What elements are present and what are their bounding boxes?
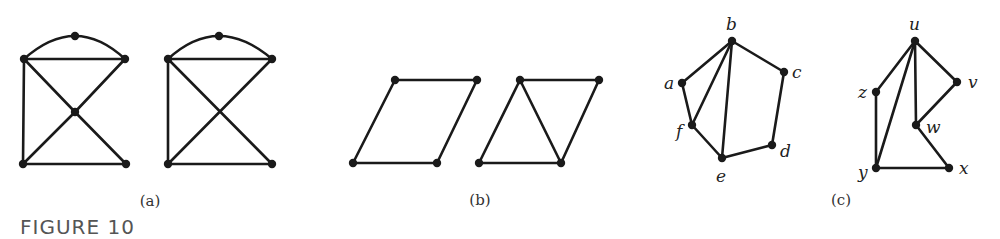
vertex-label-c: c (792, 62, 802, 82)
vertex-b1-bl (349, 159, 357, 167)
vertex-c1-e (718, 154, 726, 162)
vertex-c1-a (678, 79, 686, 87)
vertex-b1-tr (473, 76, 481, 84)
panel-label-b: (b) (469, 191, 490, 209)
vertex-label-f: f (674, 121, 685, 141)
vertex-a2-br (268, 160, 276, 168)
edge-c1-b-c (732, 41, 784, 72)
edge-c2-u-w (915, 41, 916, 125)
vertex-b2-tr (595, 76, 603, 84)
edge-a1-tl-bl (23, 59, 24, 164)
edge-c1-e-f (692, 125, 722, 158)
vertex-a2-tl (164, 55, 172, 63)
vertex-label-v: v (968, 72, 978, 92)
figure-canvas: abcdefuvzwyx (a) (b) (c) FIGURE 10 (0, 0, 1000, 239)
edge-b2-tr-br (561, 80, 599, 163)
vertex-label-d: d (780, 141, 791, 161)
vertex-label-y: y (857, 162, 868, 182)
vertex-c1-f (688, 121, 696, 129)
nodes-layer (19, 32, 961, 172)
vertex-c2-v (953, 78, 961, 86)
edges-layer (23, 36, 957, 168)
vertex-a2-bl (164, 160, 172, 168)
vertex-labels-layer: abcdefuvzwyx (664, 14, 978, 186)
vertex-a2-tr (268, 55, 276, 63)
vertex-label-z: z (857, 82, 868, 102)
vertex-a1-bl (19, 160, 27, 168)
edge-c1-a-b (682, 41, 732, 83)
edge-c2-u-v (915, 41, 957, 82)
vertex-b2-br (557, 159, 565, 167)
edge-c1-d-e (722, 145, 772, 158)
panel-label-a: (a) (140, 192, 161, 210)
vertex-b2-bl (475, 159, 483, 167)
edge-b2-tl-br (520, 80, 561, 163)
vertex-c2-w (912, 121, 920, 129)
panel-label-c: (c) (831, 191, 851, 209)
vertex-label-a: a (664, 73, 674, 93)
edge-c2-u-z (876, 41, 915, 92)
vertex-c1-b (728, 37, 736, 45)
vertex-c2-z (872, 88, 880, 96)
vertex-b2-tl (516, 76, 524, 84)
vertex-b1-tl (391, 76, 399, 84)
edge-a1-c-bl (23, 112, 75, 164)
edge-b2-bl-tl (479, 80, 520, 163)
vertex-b1-br (433, 159, 441, 167)
edge-b1-tr-br (437, 80, 477, 163)
vertex-label-u: u (909, 14, 920, 34)
vertex-label-w: w (926, 117, 941, 137)
vertex-c1-c (780, 68, 788, 76)
vertex-c2-x (945, 164, 953, 172)
edge-a1-c-br (75, 112, 126, 164)
vertex-a1-top (71, 32, 79, 40)
edge-c1-c-d (772, 72, 784, 145)
edge-b1-bl-tl (353, 80, 395, 163)
vertex-c2-y (872, 164, 880, 172)
edge-a1-tr-c (75, 59, 125, 112)
figure-title: FIGURE 10 (20, 215, 135, 239)
edge-a1-tl-c (24, 59, 75, 112)
vertex-a2-top (215, 32, 223, 40)
edge-c1-f-a (682, 83, 692, 125)
vertex-label-b: b (726, 14, 737, 34)
edge-c2-u-y (876, 41, 915, 168)
vertex-c2-u (911, 37, 919, 45)
vertex-a1-c (71, 108, 79, 116)
vertex-a1-tr (121, 55, 129, 63)
vertex-label-x: x (959, 158, 969, 178)
vertex-c1-d (768, 141, 776, 149)
vertex-a1-br (122, 160, 130, 168)
vertex-a1-tl (20, 55, 28, 63)
vertex-label-e: e (716, 166, 726, 186)
